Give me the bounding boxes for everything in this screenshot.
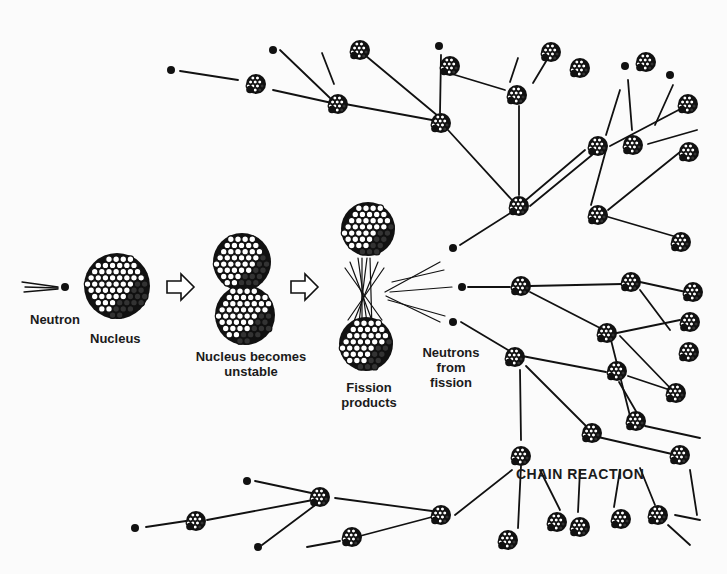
- small-nucleus-icon: [246, 74, 266, 94]
- small-nucleus-icon: [666, 383, 686, 403]
- explosion-ray: [392, 270, 444, 282]
- small-nucleus-icon: [621, 272, 641, 292]
- neutron-path: [620, 336, 675, 393]
- small-nucleus-icon: [431, 113, 451, 133]
- small-nucleus-icon: [570, 517, 590, 537]
- small-nucleus-icon: [626, 411, 646, 431]
- small-nucleus-icon: [636, 52, 656, 72]
- neutron-path: [591, 150, 606, 205]
- neutron-path: [605, 216, 680, 238]
- label-neutrons-from-fission: Neutrons from fission: [416, 345, 486, 390]
- label-fission-products: Fission products: [334, 380, 404, 410]
- neutron-icon: [683, 294, 691, 302]
- neutron-icon: [666, 71, 674, 79]
- small-nucleus-icon: [597, 323, 617, 343]
- neutron-path: [460, 212, 512, 245]
- neutron-icon: [679, 154, 687, 162]
- neutron-path: [612, 320, 680, 334]
- neutron-icon: [511, 288, 519, 296]
- explosion-ray: [386, 296, 440, 322]
- neutron-path: [645, 426, 700, 438]
- neutron-icon: [435, 42, 443, 50]
- neutron-path: [335, 498, 432, 511]
- neutron-icon: [623, 147, 631, 155]
- neutron-icon: [671, 244, 679, 252]
- neutron-icon: [350, 52, 358, 60]
- small-nucleus-icon: [607, 361, 627, 381]
- neutron-icon: [328, 106, 336, 114]
- neutron-path: [255, 481, 316, 494]
- neutron-path: [530, 292, 600, 328]
- small-nucleus-icon: [328, 94, 348, 114]
- neutron-icon: [310, 499, 318, 507]
- neutron-path: [452, 74, 505, 90]
- small-nucleus-icon: [683, 282, 703, 302]
- small-nucleus-icon: [310, 487, 330, 507]
- neutron-icon: [505, 359, 513, 367]
- neutron-path: [322, 53, 334, 84]
- neutron-path: [455, 470, 512, 515]
- neutron-path: [533, 58, 548, 83]
- neutron-path: [180, 71, 238, 80]
- neutron-icon: [440, 68, 448, 76]
- incoming-neutron-icon: [61, 283, 69, 291]
- neutron-path: [640, 290, 670, 330]
- neutron-icon: [547, 524, 555, 532]
- neutron-icon: [648, 517, 656, 525]
- fission-top-icon: [341, 202, 395, 256]
- label-unstable-line2: unstable: [190, 364, 312, 379]
- explosion-ray: [345, 268, 382, 320]
- neutron-icon: [570, 70, 578, 78]
- neutron-icon: [131, 524, 139, 532]
- small-nucleus-icon: [588, 205, 608, 225]
- neutron-path: [690, 470, 697, 515]
- fission-chain-reaction-diagram: Neutron Nucleus Nucleus becomes unstable…: [0, 0, 727, 574]
- fission-bottom-icon: [339, 317, 393, 371]
- neutron-icon: [498, 542, 506, 550]
- small-nucleus-icon: [541, 42, 561, 62]
- neutron-path: [360, 517, 432, 536]
- neutron-path: [146, 521, 186, 527]
- neutron-icon: [626, 423, 634, 431]
- small-nucleus-icon: [611, 509, 631, 529]
- neutron-icon: [509, 208, 517, 216]
- neutron-path: [510, 58, 518, 82]
- small-nucleus-icon: [547, 512, 567, 532]
- small-nucleus-icon: [440, 56, 460, 76]
- neutron-icon: [507, 97, 515, 105]
- neutron-path: [207, 500, 313, 520]
- small-nucleus-icon: [623, 135, 643, 155]
- neutron-icon: [678, 106, 686, 114]
- small-nucleus-icon: [505, 347, 525, 367]
- small-nucleus-icon: [680, 312, 700, 332]
- neutron-icon: [254, 543, 262, 551]
- label-neutrons-line3: fission: [416, 375, 486, 390]
- label-fission-line2: products: [334, 395, 404, 410]
- neutron-path: [640, 282, 686, 292]
- small-nucleus-icon: [570, 58, 590, 78]
- small-nucleus-icon: [648, 505, 668, 525]
- neutron-icon: [582, 435, 590, 443]
- neutron-icon: [186, 523, 194, 531]
- label-nucleus: Nucleus: [90, 331, 141, 346]
- neutron-path: [598, 437, 672, 454]
- neutron-icon: [670, 457, 678, 465]
- neutron-icon: [607, 373, 615, 381]
- incoming-ray: [22, 282, 58, 287]
- unstable-top-icon: [213, 233, 271, 291]
- neutron-icon: [541, 54, 549, 62]
- neutron-path: [448, 130, 512, 200]
- small-nucleus-icon: [342, 527, 362, 547]
- label-neutron: Neutron: [30, 312, 80, 327]
- neutron-icon: [666, 395, 674, 403]
- unstable-bottom-icon: [215, 285, 275, 345]
- neutron-icon: [167, 66, 175, 74]
- neutron-path: [526, 366, 588, 428]
- small-nucleus-icon: [511, 276, 531, 296]
- right-arrow-icon: [291, 274, 318, 300]
- neutron-icon: [621, 62, 629, 70]
- small-nucleus-icon: [679, 142, 699, 162]
- neutron-path: [522, 356, 606, 372]
- neutron-path: [648, 130, 697, 144]
- explosion-ray: [388, 300, 445, 316]
